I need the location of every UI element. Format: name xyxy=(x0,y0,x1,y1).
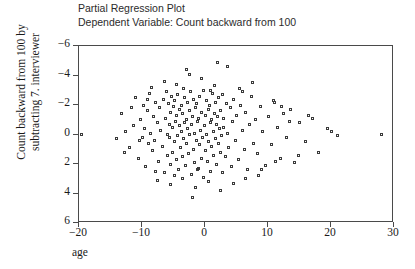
y-axis-label-line1: Count backward from 100 by xyxy=(14,12,28,172)
data-point xyxy=(234,139,237,142)
data-point xyxy=(212,154,215,157)
data-point xyxy=(157,160,160,163)
data-point xyxy=(181,112,184,115)
data-point xyxy=(169,163,172,166)
data-point xyxy=(80,133,83,136)
data-point xyxy=(178,124,181,127)
y-axis-tick-label: 2 xyxy=(44,155,70,167)
data-point xyxy=(120,112,123,115)
data-point xyxy=(159,129,162,132)
data-point xyxy=(211,92,214,95)
x-axis-tick-label: 0 xyxy=(187,226,221,238)
data-point xyxy=(192,98,195,101)
x-axis-tick-label: 30 xyxy=(376,226,410,238)
data-point xyxy=(153,139,156,142)
data-point xyxy=(203,124,206,127)
data-point xyxy=(194,186,197,189)
data-point xyxy=(193,161,196,164)
data-point xyxy=(182,137,185,140)
data-point xyxy=(134,96,137,99)
data-point xyxy=(197,117,200,120)
data-point xyxy=(163,80,166,83)
data-point xyxy=(163,171,166,174)
data-point xyxy=(241,129,244,132)
data-point xyxy=(221,171,224,174)
y-axis-tick xyxy=(73,45,78,46)
data-point xyxy=(183,96,186,99)
data-point xyxy=(219,109,222,112)
data-point xyxy=(143,127,146,130)
data-point xyxy=(181,177,184,180)
data-point xyxy=(205,99,208,102)
data-point xyxy=(260,168,263,171)
data-point xyxy=(244,177,247,180)
data-point xyxy=(201,136,204,139)
data-point xyxy=(336,134,339,137)
data-point xyxy=(243,148,246,151)
data-point xyxy=(259,105,262,108)
data-point xyxy=(180,130,183,133)
data-point xyxy=(213,84,216,87)
data-point xyxy=(156,121,159,124)
data-point xyxy=(251,81,254,84)
data-point xyxy=(173,140,176,143)
data-point xyxy=(207,180,210,183)
data-point xyxy=(124,130,127,133)
data-point xyxy=(170,95,173,98)
data-point xyxy=(179,146,182,149)
data-point xyxy=(176,134,179,137)
y-axis-tick-label: −2 xyxy=(44,96,70,108)
data-point xyxy=(205,133,208,136)
data-point xyxy=(189,90,192,93)
data-point xyxy=(297,154,300,157)
x-axis-tick-label: 10 xyxy=(250,226,284,238)
data-point xyxy=(187,152,190,155)
data-point xyxy=(204,114,207,117)
data-point xyxy=(195,139,198,142)
data-point xyxy=(175,114,178,117)
data-point xyxy=(226,65,229,68)
data-point xyxy=(188,109,191,112)
data-point xyxy=(176,93,179,96)
data-point xyxy=(182,87,185,90)
data-point xyxy=(219,189,222,192)
plot-area xyxy=(78,45,393,222)
data-point xyxy=(252,142,255,145)
data-point xyxy=(175,83,178,86)
data-point xyxy=(146,98,149,101)
data-point xyxy=(241,90,244,93)
data-point xyxy=(250,95,253,98)
data-point xyxy=(207,108,210,111)
data-point xyxy=(217,142,220,145)
data-point xyxy=(128,146,131,149)
data-point xyxy=(196,168,199,171)
data-point xyxy=(138,139,141,142)
y-axis-tick xyxy=(73,163,78,164)
data-point xyxy=(279,157,282,160)
data-point xyxy=(212,130,215,133)
data-point xyxy=(229,106,232,109)
data-point xyxy=(330,130,333,133)
data-point xyxy=(261,130,264,133)
data-point xyxy=(188,73,191,76)
x-axis-label: age xyxy=(72,246,88,258)
data-point xyxy=(191,196,194,199)
data-point xyxy=(288,120,291,123)
data-point xyxy=(207,140,210,143)
data-point xyxy=(219,151,222,154)
data-point xyxy=(237,158,240,161)
data-point xyxy=(217,96,220,99)
data-point xyxy=(257,174,260,177)
data-point xyxy=(190,173,193,176)
data-point xyxy=(154,101,157,104)
data-point xyxy=(151,149,154,152)
data-point xyxy=(200,157,203,160)
data-point xyxy=(150,86,153,89)
data-point xyxy=(169,183,172,186)
data-point xyxy=(158,106,161,109)
data-point xyxy=(130,106,133,109)
data-point xyxy=(232,98,235,101)
data-point xyxy=(202,89,205,92)
data-point xyxy=(210,145,213,148)
data-point xyxy=(270,143,273,146)
